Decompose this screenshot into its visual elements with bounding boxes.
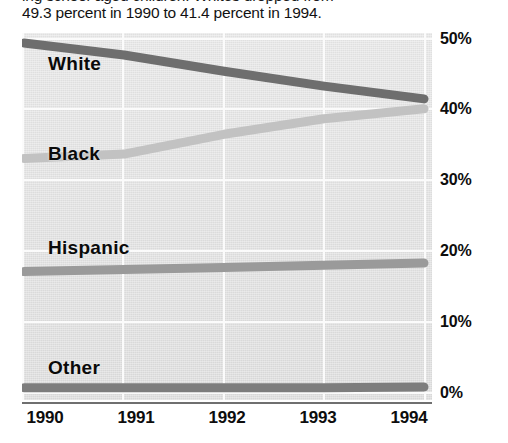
- caption-block: ing school-aged children. Whites dropped…: [0, 0, 508, 28]
- y-axis-label-30: 30%: [440, 171, 471, 189]
- x-axis-label-1993: 1993: [299, 408, 336, 428]
- series-label-hispanic: Hispanic: [48, 237, 130, 259]
- caption-line: 49.3 percent in 1990 to 41.4 percent in …: [22, 4, 322, 22]
- y-axis-label-20: 20%: [440, 242, 471, 260]
- y-axis-label-10: 10%: [440, 313, 471, 331]
- series-lines: [22, 33, 432, 400]
- x-axis-line: [22, 402, 432, 404]
- series-line-hispanic: [24, 263, 424, 272]
- plot-area: White Black Hispanic Other: [22, 33, 432, 400]
- series-label-other: Other: [48, 357, 100, 379]
- series-label-white: White: [48, 53, 101, 75]
- x-axis-label-1994: 1994: [390, 408, 427, 428]
- x-axis-label-1990: 1990: [26, 408, 63, 428]
- x-axis-label-1992: 1992: [208, 408, 245, 428]
- line-chart: White Black Hispanic Other: [22, 33, 432, 400]
- series-line-other: [24, 387, 424, 388]
- y-axis-label-50: 50%: [440, 30, 471, 48]
- y-axis-label-0: 0%: [440, 384, 463, 402]
- series-label-black: Black: [48, 143, 100, 165]
- y-axis-label-40: 40%: [440, 100, 471, 118]
- x-axis-label-1991: 1991: [117, 408, 154, 428]
- chart-page: ing school-aged children. Whites dropped…: [0, 0, 508, 443]
